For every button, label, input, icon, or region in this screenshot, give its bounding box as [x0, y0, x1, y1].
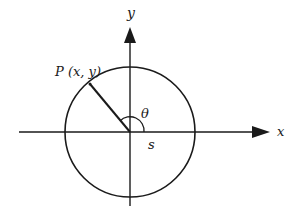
arc-length-label: s — [148, 137, 155, 152]
unit-circle-diagram: y x P (x, y) θ s — [0, 0, 294, 223]
y-axis-arrow-icon — [124, 27, 136, 43]
y-axis-label: y — [126, 5, 136, 21]
angle-label: θ — [141, 106, 149, 121]
point-label: P (x, y) — [54, 64, 101, 79]
radius-segment — [90, 84, 130, 132]
x-axis-arrow-icon — [252, 126, 270, 138]
x-axis-label: x — [277, 124, 285, 139]
point-p — [89, 83, 92, 86]
